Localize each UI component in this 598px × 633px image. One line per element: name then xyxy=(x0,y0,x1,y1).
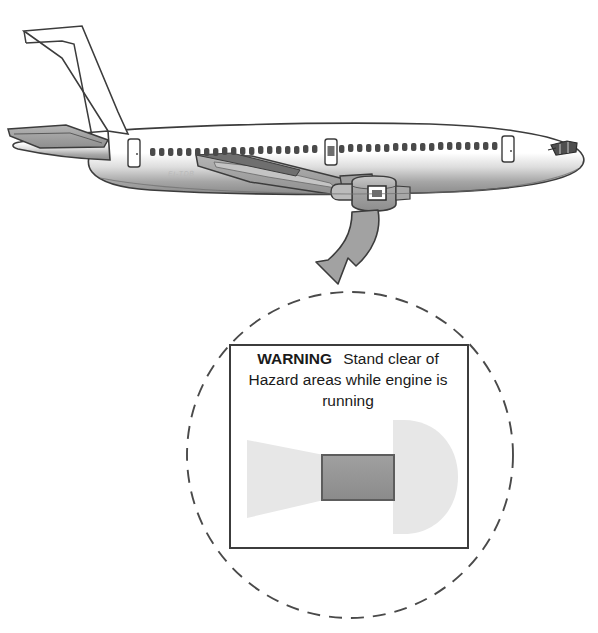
aircraft-side-view xyxy=(8,26,584,211)
warning-line3: running xyxy=(322,392,374,409)
engine-hazard-illustration xyxy=(0,0,598,633)
warning-line1-rest: Stand clear of xyxy=(343,350,439,367)
callout-arrow xyxy=(316,210,379,284)
engine-inlet-lip xyxy=(331,184,352,200)
forward-door xyxy=(502,136,514,162)
aft-door xyxy=(128,139,140,167)
warning-keyword: WARNING xyxy=(257,350,332,367)
warning-line2: Hazard areas while engine is xyxy=(248,371,447,388)
fuselage-registration-marking: EI-TDB xyxy=(168,170,195,178)
engine-body xyxy=(322,455,394,500)
placard-warning-text: WARNINGStand clear of Hazard areas while… xyxy=(232,348,464,411)
